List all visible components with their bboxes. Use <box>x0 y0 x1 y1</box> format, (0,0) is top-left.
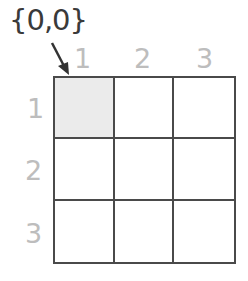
grid-3x3 <box>53 76 236 264</box>
cell-1-1 <box>55 78 115 139</box>
column-header-2: 2 <box>134 45 151 72</box>
cell-1-3 <box>174 78 234 139</box>
cell-2-2 <box>115 139 175 200</box>
column-header-1: 1 <box>74 45 91 72</box>
cell-2-3 <box>174 139 234 200</box>
row-header-2: 2 <box>25 157 42 184</box>
cell-1-2 <box>115 78 175 139</box>
cell-3-1 <box>55 201 115 262</box>
cell-3-2 <box>115 201 175 262</box>
cell-3-3 <box>174 201 234 262</box>
row-header-1: 1 <box>27 95 44 122</box>
row-header-3: 3 <box>25 220 42 247</box>
column-header-3: 3 <box>196 45 213 72</box>
cell-2-1 <box>55 139 115 200</box>
